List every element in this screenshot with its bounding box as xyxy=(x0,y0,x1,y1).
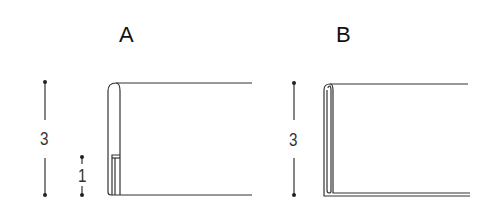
panel-a-return-dimension xyxy=(80,155,84,197)
panel-b-height-dimension xyxy=(292,81,296,197)
panel-a-height-dimension xyxy=(43,80,47,197)
profile-drawing xyxy=(0,0,504,205)
panel-a-profile xyxy=(108,83,252,195)
panel-b-profile xyxy=(324,84,470,196)
